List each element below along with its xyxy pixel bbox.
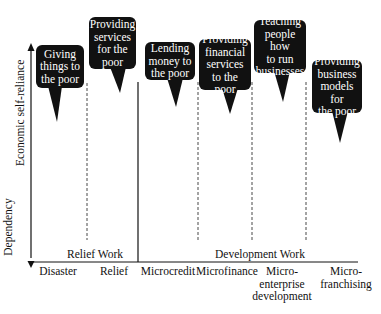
relief-development-diagram: Economic self-reliance Dependency Giving…	[0, 0, 381, 314]
y-axis-bottom-label: Dependency	[2, 197, 14, 257]
bubble-lending-money: Lendingmoney tothe poor	[145, 42, 195, 80]
group-label-relief-work: Relief Work	[55, 248, 135, 261]
bubble-giving-things: Givingthings tothe poor	[36, 45, 84, 88]
bubble-providing-services: Providingservicesfor thepoor	[89, 17, 136, 69]
arrow-up-icon	[28, 43, 35, 51]
category-relief: Relief	[92, 265, 136, 278]
category-microcredit: Microcredit	[138, 265, 198, 278]
bubble-teaching-people: Teachingpeople howto runbusinesses	[254, 20, 306, 73]
y-axis-top-label: Economic self-reliance	[14, 66, 26, 166]
category-microfinance: Microfinance	[196, 265, 258, 278]
bubble-financial-services: Providingfinancialservicesto the poor	[199, 39, 251, 90]
group-label-development-work: Development Work	[200, 248, 320, 261]
category-microenterprise: Micro- enterprise development	[252, 265, 312, 303]
category-microfranchising: Micro- franchising	[316, 265, 376, 290]
bubble-tail-3	[167, 78, 183, 107]
bubble-tail-2	[110, 67, 126, 93]
bubble-business-models: Providingbusinessmodels forthe poor	[312, 60, 362, 113]
bubble-tail-1	[48, 86, 62, 122]
category-disaster: Disaster	[33, 265, 83, 278]
